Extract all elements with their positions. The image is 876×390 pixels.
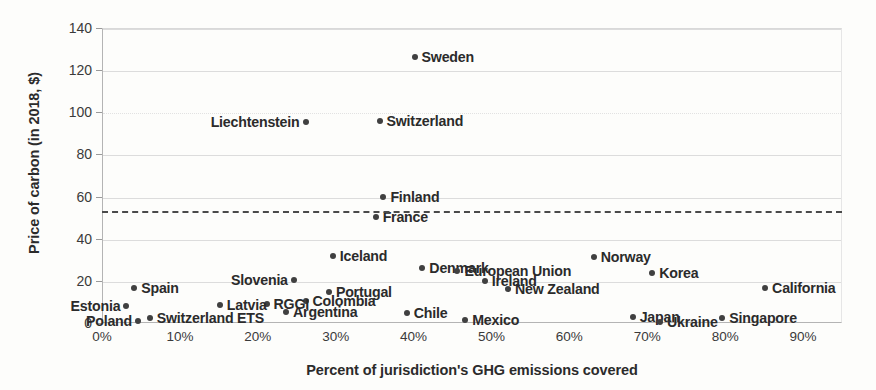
x-tick-label-50: 50% [461, 329, 521, 344]
data-point-marker[interactable] [135, 318, 141, 324]
data-point-marker[interactable] [123, 303, 129, 309]
data-point-marker[interactable] [131, 285, 137, 291]
data-point-label: California [772, 280, 835, 296]
data-point-label: Argentina [293, 304, 357, 320]
gridline-40 [103, 240, 841, 241]
data-point-marker[interactable] [330, 253, 336, 259]
data-point-label: Liechtenstein [211, 114, 300, 130]
x-tick-label-30: 30% [306, 329, 366, 344]
data-point-marker[interactable] [762, 285, 768, 291]
data-point-label: Slovenia [231, 272, 288, 288]
threshold-dashed-line [102, 211, 842, 213]
scatter-chart-figure: Price of carbon (in 2018, $) Percent of … [0, 0, 876, 390]
data-point-marker[interactable] [719, 315, 725, 321]
x-tick-label-0: 0% [72, 329, 132, 344]
y-tick-label-80: 80 [32, 146, 92, 162]
data-point-label: Chile [414, 305, 448, 321]
x-tick-label-20: 20% [228, 329, 288, 344]
data-point-marker[interactable] [419, 265, 425, 271]
data-point-marker[interactable] [283, 309, 289, 315]
data-point-label: Poland [86, 313, 132, 329]
x-tick-label-60: 60% [539, 329, 599, 344]
y-tick-label-100: 100 [32, 104, 92, 120]
data-point-marker[interactable] [630, 314, 636, 320]
data-point-marker[interactable] [482, 278, 488, 284]
data-point-marker[interactable] [649, 270, 655, 276]
data-point-label: Sweden [422, 49, 474, 65]
data-point-marker[interactable] [303, 119, 309, 125]
plot-area: SwedenSwitzerlandLiechtensteinFinlandFra… [102, 28, 842, 323]
data-point-label: Switzerland [387, 113, 464, 129]
x-tick-label-70: 70% [617, 329, 677, 344]
gridline-20 [103, 282, 841, 283]
data-point-marker[interactable] [291, 277, 297, 283]
data-point-label: Iceland [340, 248, 388, 264]
gridline-80 [103, 155, 841, 156]
x-tick-label-90: 90% [773, 329, 833, 344]
data-point-marker[interactable] [462, 317, 468, 323]
gridline-120 [103, 71, 841, 72]
data-point-label: Finland [390, 189, 439, 205]
data-point-label: Korea [659, 265, 698, 281]
data-point-marker[interactable] [657, 319, 663, 325]
data-point-label: Singapore [729, 310, 797, 326]
data-point-marker[interactable] [591, 254, 597, 260]
data-point-marker[interactable] [217, 302, 223, 308]
gridline-60 [103, 198, 841, 199]
x-axis-title: Percent of jurisdiction's GHG emissions … [102, 362, 842, 378]
data-point-label: Ukraine [667, 314, 718, 330]
x-tick-label-80: 80% [695, 329, 755, 344]
x-tick-label-10: 10% [150, 329, 210, 344]
x-tick-label-40: 40% [384, 329, 444, 344]
data-point-label: Switzerland ETS [157, 310, 264, 326]
data-point-marker[interactable] [380, 194, 386, 200]
data-point-label: New Zealand [515, 281, 600, 297]
y-tick-label-140: 140 [32, 20, 92, 36]
y-tick-label-40: 40 [32, 231, 92, 247]
data-point-marker[interactable] [377, 118, 383, 124]
y-tick-label-60: 60 [32, 189, 92, 205]
data-point-marker[interactable] [404, 310, 410, 316]
data-point-label: Estonia [71, 298, 121, 314]
data-point-label: Spain [141, 280, 179, 296]
gridline-140 [103, 29, 841, 30]
data-point-marker[interactable] [373, 214, 379, 220]
y-tick-label-120: 120 [32, 62, 92, 78]
data-point-marker[interactable] [505, 286, 511, 292]
data-point-marker[interactable] [147, 315, 153, 321]
data-point-marker[interactable] [412, 54, 418, 60]
data-point-label: Norway [601, 249, 651, 265]
y-tick-label-20: 20 [32, 273, 92, 289]
data-point-label: Mexico [472, 312, 519, 328]
